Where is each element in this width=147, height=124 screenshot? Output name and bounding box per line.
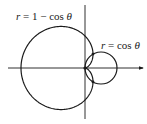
circle-equation-label: r = cos θ <box>101 40 140 51</box>
intersection-point-lower <box>92 81 95 84</box>
intersection-point-pole <box>83 66 86 69</box>
cardioid-equation-label: r = 1 − cos θ <box>16 11 72 22</box>
label-eq: = cos <box>105 39 134 51</box>
label-theta: θ <box>134 39 139 51</box>
label-theta: θ <box>67 10 72 22</box>
intersection-point-upper <box>92 53 95 56</box>
label-eq: = 1 − cos <box>20 10 66 22</box>
